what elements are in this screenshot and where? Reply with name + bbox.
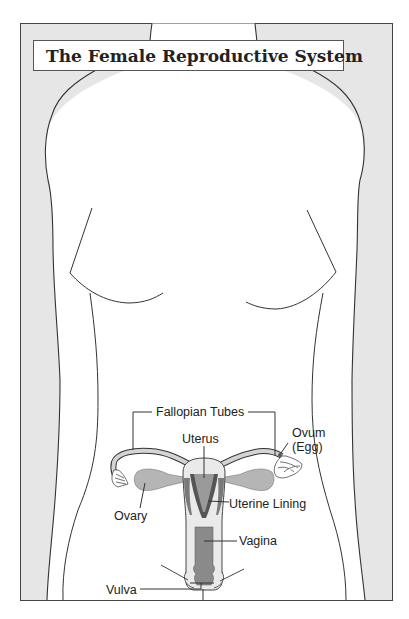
label-uterus: Uterus xyxy=(182,432,219,446)
vagina xyxy=(193,527,214,585)
label-ovum-line2: (Egg) xyxy=(292,440,323,454)
label-ovary: Ovary xyxy=(114,509,147,523)
label-ovum-line1: Ovum xyxy=(292,426,325,440)
label-vagina: Vagina xyxy=(239,534,277,548)
label-uterine-lining: Uterine Lining xyxy=(229,497,306,511)
page-title: The Female Reproductive System xyxy=(46,46,363,66)
female-reproductive-diagram xyxy=(0,0,409,619)
label-vulva: Vulva xyxy=(106,583,137,597)
title-box: The Female Reproductive System xyxy=(33,40,344,71)
label-fallopian-tubes: Fallopian Tubes xyxy=(156,405,244,419)
ovum xyxy=(278,453,282,457)
